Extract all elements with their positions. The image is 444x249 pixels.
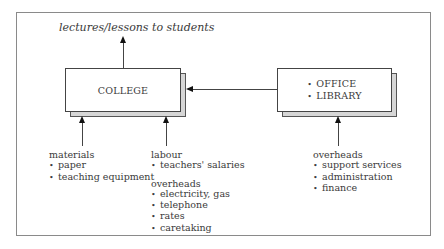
materials-block: materials paper teaching equipment xyxy=(49,150,154,183)
labour-arrow-line xyxy=(166,122,167,146)
office-overheads-arrow-head-icon xyxy=(335,116,341,123)
college-overheads-item: caretaking xyxy=(151,223,245,234)
office-to-college-line xyxy=(192,89,277,90)
output-arrow-head-icon xyxy=(120,36,126,43)
output-arrow-line xyxy=(123,43,124,68)
materials-arrow-head-icon xyxy=(79,116,85,123)
office-to-college-arrow-head-icon xyxy=(186,86,193,92)
materials-arrow-line xyxy=(82,122,83,146)
college-label: COLLEGE xyxy=(98,85,149,96)
labour-arrow-head-icon xyxy=(163,116,169,123)
materials-item: paper xyxy=(49,160,154,171)
output-label: lectures/lessons to students xyxy=(59,21,214,34)
labour-item: teachers' salaries xyxy=(151,160,245,171)
office-library-box: OFFICE LIBRARY xyxy=(277,68,392,112)
labour-block: labour teachers' salaries overheads elec… xyxy=(151,150,245,234)
office-item: OFFICE xyxy=(307,78,362,90)
office-overheads-block: overheads support services administratio… xyxy=(313,150,402,194)
materials-item: teaching equipment xyxy=(49,172,154,183)
office-overheads-item: support services xyxy=(313,160,402,171)
office-overheads-arrow-line xyxy=(338,122,339,146)
college-box: COLLEGE xyxy=(65,68,181,112)
office-overheads-item: finance xyxy=(313,183,402,194)
library-item: LIBRARY xyxy=(307,90,362,102)
